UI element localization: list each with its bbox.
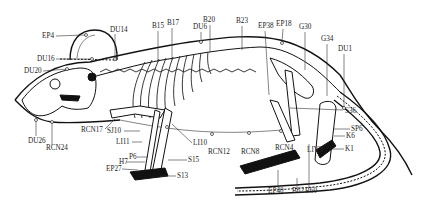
tail xyxy=(235,92,391,195)
label-k6: K6 xyxy=(346,132,355,140)
label-s13: S13 xyxy=(177,172,189,180)
label-rcn4: RCN4 xyxy=(275,144,294,152)
label-du1: DU1 xyxy=(338,45,352,53)
label-du16: DU16 xyxy=(37,55,55,63)
label-s15: S15 xyxy=(188,156,200,164)
label-b23: B23 xyxy=(236,17,248,25)
label-rcn24: RCN24 xyxy=(46,144,68,152)
label-sj10: SJ10 xyxy=(107,127,121,135)
label-rcn12: RCN12 xyxy=(208,148,230,156)
label-g34: G34 xyxy=(321,35,334,43)
label-li10: LI10 xyxy=(193,139,207,147)
rat-acupoint-diagram: EP4 DU14 DU16 DU20 B15 B17 DU6 B20 B23 E… xyxy=(0,0,423,211)
label-ep27: EP27 xyxy=(106,165,122,173)
label-s36: S36 xyxy=(345,107,357,115)
label-du20: DU20 xyxy=(24,67,42,75)
label-du14: DU14 xyxy=(110,26,128,34)
label-du26: DU26 xyxy=(28,137,46,145)
label-b17: B17 xyxy=(167,19,179,27)
label-li11: LI11 xyxy=(116,138,130,146)
label-g30: G30 xyxy=(299,23,312,31)
label-rcn17: RCN17 xyxy=(81,126,103,134)
label-b20: B20 xyxy=(203,16,215,24)
label-b62: B62 xyxy=(292,187,304,195)
label-b60: B60 xyxy=(305,187,317,195)
label-liv3: LIV3 xyxy=(307,146,323,154)
ear xyxy=(60,30,117,60)
label-du6: DU6 xyxy=(193,23,207,31)
skull xyxy=(22,68,96,116)
label-ep38: EP38 xyxy=(258,22,274,30)
label-ep18: EP18 xyxy=(276,20,292,28)
label-p6: P6 xyxy=(129,153,137,161)
label-ep4: EP4 xyxy=(42,32,54,40)
label-ep40: EP40 xyxy=(268,187,284,195)
label-rcn8: RCN8 xyxy=(241,148,260,156)
label-k1: K1 xyxy=(345,145,354,153)
label-b15: B15 xyxy=(152,22,164,30)
